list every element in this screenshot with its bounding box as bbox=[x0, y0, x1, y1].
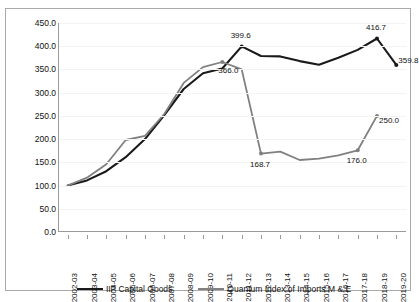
x-axis: 2002-032003-042004-052005-062006-072007-… bbox=[58, 235, 406, 277]
x-axis-tick bbox=[261, 235, 262, 239]
x-axis-tick bbox=[338, 235, 339, 239]
x-axis-tick bbox=[242, 235, 243, 239]
y-axis-tick-label: 450.0 bbox=[10, 19, 56, 28]
chart-lines bbox=[58, 23, 406, 232]
gridline bbox=[59, 23, 406, 24]
y-axis-tick-label: 250.0 bbox=[10, 112, 56, 121]
chart-legend: IIP Capital GoodsQuantum Index of Import… bbox=[11, 281, 417, 297]
legend-label: Quantum Index of Imports M & E bbox=[227, 285, 351, 294]
y-axis: 450.0400.0350.0300.0250.0200.0150.0100.0… bbox=[6, 9, 56, 249]
x-axis-tick bbox=[319, 235, 320, 239]
x-axis-tick bbox=[377, 235, 378, 239]
y-axis-tick-label: 350.0 bbox=[10, 65, 56, 74]
x-axis-tick bbox=[358, 235, 359, 239]
x-axis-tick bbox=[145, 235, 146, 239]
x-axis-tick bbox=[184, 235, 185, 239]
x-axis-tick bbox=[87, 235, 88, 239]
data-label: 250.0 bbox=[379, 117, 399, 125]
y-axis-tick-label: 100.0 bbox=[10, 182, 56, 191]
legend-item: IIP Capital Goods bbox=[77, 285, 172, 294]
x-axis-tick bbox=[126, 235, 127, 239]
gridline bbox=[59, 116, 406, 117]
data-label: 399.6 bbox=[231, 32, 251, 40]
gridline bbox=[59, 93, 406, 94]
y-axis-tick-label: 400.0 bbox=[10, 42, 56, 51]
y-axis-tick-label: 200.0 bbox=[10, 135, 56, 144]
legend-item: Quantum Index of Imports M & E bbox=[198, 285, 351, 294]
gridline bbox=[59, 209, 406, 210]
data-label: 359.8 bbox=[398, 57, 418, 65]
x-axis-tick bbox=[203, 235, 204, 239]
data-point-marker bbox=[220, 60, 224, 64]
y-axis-tick-label: 0.0 bbox=[10, 228, 56, 237]
cropped-text-artifact bbox=[232, 0, 235, 1]
data-label: 176.0 bbox=[347, 157, 367, 165]
legend-swatch bbox=[77, 288, 103, 290]
x-axis-tick bbox=[300, 235, 301, 239]
series-line bbox=[68, 62, 377, 186]
data-label: 366.0 bbox=[218, 67, 238, 75]
x-axis-tick bbox=[106, 235, 107, 239]
cropped-header-strip bbox=[0, 0, 419, 7]
legend-swatch bbox=[198, 288, 224, 290]
y-axis-tick-label: 50.0 bbox=[10, 205, 56, 214]
gridline bbox=[59, 186, 406, 187]
legend-label: IIP Capital Goods bbox=[106, 285, 172, 294]
x-axis-tick bbox=[396, 235, 397, 239]
gridline bbox=[59, 139, 406, 140]
x-axis-tick bbox=[280, 235, 281, 239]
data-label: 168.7 bbox=[250, 161, 270, 169]
gridline bbox=[59, 46, 406, 47]
data-point-marker bbox=[375, 37, 379, 41]
x-axis-tick bbox=[222, 235, 223, 239]
data-point-marker bbox=[259, 152, 263, 156]
x-axis-tick bbox=[164, 235, 165, 239]
data-label: 416.7 bbox=[366, 24, 386, 32]
data-point-marker bbox=[356, 148, 360, 152]
y-axis-tick-label: 300.0 bbox=[10, 89, 56, 98]
x-axis-tick bbox=[68, 235, 69, 239]
plot-area: 399.6416.7359.8366.0168.7176.0250.0 bbox=[58, 23, 406, 232]
chart-frame: 450.0400.0350.0300.0250.0200.0150.0100.0… bbox=[5, 8, 411, 291]
y-axis-tick-label: 150.0 bbox=[10, 158, 56, 167]
